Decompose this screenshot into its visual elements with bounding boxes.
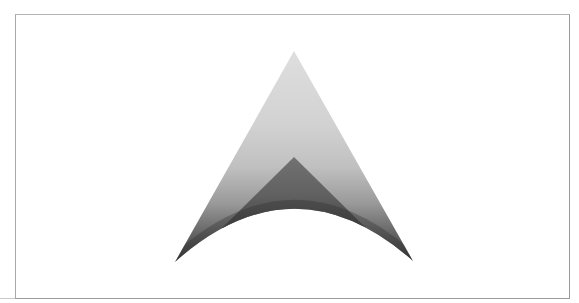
arrowhead-logo-icon: [0, 0, 579, 303]
